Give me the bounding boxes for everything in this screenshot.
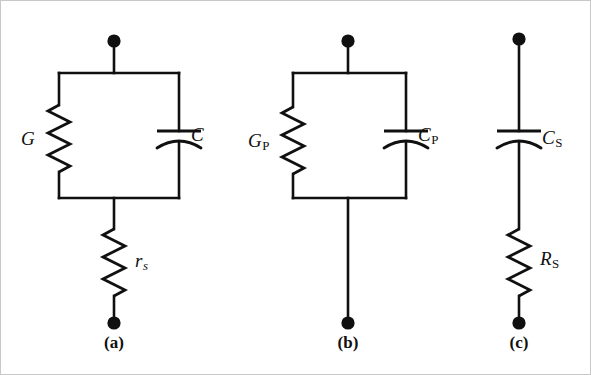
- circuit-c-resistor-RS-zigzag: [508, 229, 530, 296]
- circuit-a: [48, 34, 201, 329]
- label-parallel-conductance-GP-symbol: G: [248, 130, 262, 151]
- label-conductance-G: G: [21, 129, 35, 148]
- label-parallel-capacitance-CP: CP: [418, 125, 438, 147]
- label-conductance-G-symbol: G: [21, 128, 35, 149]
- circuit-a-resistor-rs-zigzag: [103, 229, 125, 296]
- label-series-resistance-rs: rs: [135, 251, 148, 273]
- circuit-a-top-terminal-dot: [107, 34, 120, 47]
- label-parallel-conductance-GP-subscript: P: [262, 138, 269, 153]
- circuit-figure: G C rs GP CP CS RS (a) (b) (c): [0, 0, 591, 375]
- label-parallel-conductance-GP: GP: [248, 131, 269, 153]
- label-series-resistance-rs-subscript: s: [143, 258, 148, 273]
- caption-a: (a): [104, 334, 124, 351]
- label-series-resistance-rs-symbol: r: [135, 250, 142, 271]
- caption-c: (c): [510, 334, 529, 351]
- circuit-c-bottom-terminal-dot: [512, 316, 525, 329]
- label-parallel-capacitance-CP-subscript: P: [431, 132, 438, 147]
- label-series-resistance-RS-symbol: R: [540, 248, 552, 269]
- label-series-resistance-RS-subscript: S: [552, 256, 559, 271]
- circuit-b: [282, 34, 428, 329]
- circuit-b-resistor-GP-zigzag: [282, 107, 304, 174]
- label-series-capacitance-CS: CS: [542, 128, 562, 150]
- label-parallel-capacitance-CP-symbol: C: [418, 124, 431, 145]
- label-series-capacitance-CS-subscript: S: [555, 135, 562, 150]
- circuit-b-bottom-terminal-dot: [341, 316, 354, 329]
- label-capacitance-C-symbol: C: [191, 124, 204, 145]
- circuit-c: [497, 32, 541, 329]
- circuit-a-resistor-G-zigzag: [48, 105, 70, 172]
- circuit-a-bottom-terminal-dot: [107, 316, 120, 329]
- caption-b: (b): [338, 334, 359, 351]
- circuit-schematic: [1, 1, 591, 375]
- label-capacitance-C: C: [191, 125, 204, 144]
- circuit-b-top-terminal-dot: [341, 34, 354, 47]
- circuit-c-top-terminal-dot: [512, 32, 525, 45]
- label-series-resistance-RS: RS: [540, 249, 559, 271]
- label-series-capacitance-CS-symbol: C: [542, 127, 555, 148]
